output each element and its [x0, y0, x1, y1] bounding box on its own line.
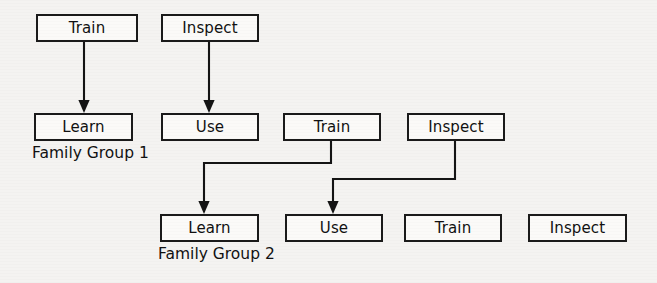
node-label: Train	[314, 120, 351, 135]
node-label: Use	[320, 221, 348, 236]
node-label: Inspect	[182, 21, 237, 36]
node-label: Learn	[62, 120, 104, 135]
connector-train2-to-learn3	[198, 141, 331, 214]
node-label: Inspect	[428, 120, 483, 135]
node-row3-learn[interactable]: Learn	[160, 214, 259, 242]
node-row3-inspect[interactable]: Inspect	[528, 214, 627, 242]
node-row2-inspect[interactable]: Inspect	[407, 113, 505, 141]
node-row1-inspect[interactable]: Inspect	[161, 14, 259, 42]
node-label: Inspect	[550, 221, 605, 236]
node-row1-train[interactable]: Train	[36, 14, 138, 42]
node-row2-learn[interactable]: Learn	[34, 113, 133, 141]
family-group-1-label: Family Group 1	[32, 146, 149, 162]
node-row2-use[interactable]: Use	[161, 113, 259, 141]
node-label: Train	[435, 221, 472, 236]
node-row3-use[interactable]: Use	[285, 214, 383, 242]
diagram-canvas: Train Inspect Learn Use Train Inspect Le…	[0, 0, 657, 283]
node-label: Use	[196, 120, 224, 135]
node-label: Train	[69, 21, 106, 36]
family-group-2-label: Family Group 2	[158, 247, 275, 263]
node-label: Learn	[188, 221, 230, 236]
connector-inspect-to-use	[203, 42, 214, 113]
connector-inspect2-to-use3	[327, 141, 455, 214]
node-row2-train[interactable]: Train	[283, 113, 381, 141]
connector-train-to-learn	[78, 42, 89, 113]
node-row3-train[interactable]: Train	[404, 214, 502, 242]
